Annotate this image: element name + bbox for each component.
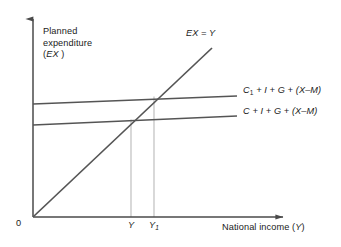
upper-c-symbol: C <box>243 85 250 95</box>
x-tick-y-text: Y <box>128 220 134 230</box>
lower-label-rest: + I + G + (X–M) <box>250 106 318 116</box>
equals-sign: = <box>198 28 209 38</box>
upper-label-rest: + I + G + (X–M) <box>254 85 322 95</box>
y-axis-title-line3-close: ) <box>59 49 65 59</box>
origin-label: 0 <box>16 218 21 229</box>
aggregate-expenditure-line-shifted <box>33 96 237 104</box>
aggregate-expenditure-label: C + I + G + (X–M) <box>243 106 317 117</box>
forty-five-degree-line <box>34 48 213 217</box>
x-tick-label-y: Y <box>128 220 134 231</box>
y-axis-title-line1: Planned <box>43 26 77 36</box>
y-axis-title: Planned expenditure (EX ) <box>43 26 92 61</box>
x-axis-title: National income (Y) <box>222 222 305 233</box>
y-axis-title-line2: expenditure <box>43 38 92 48</box>
y-symbol: Y <box>209 28 215 38</box>
forty-five-degree-line-label: EX = Y <box>186 28 215 39</box>
x-tick-y1-subscript: 1 <box>155 224 159 231</box>
upper-c-subscript: 1 <box>250 89 254 96</box>
x-axis-title-text: National income ( <box>222 222 295 232</box>
aggregate-expenditure-line <box>33 116 237 125</box>
x-axis-title-close: ) <box>301 222 304 232</box>
lower-c-symbol: C <box>243 106 250 116</box>
keynesian-cross-figure: Planned expenditure (EX ) EX = Y C1 + I … <box>0 0 341 247</box>
ex-symbol: EX <box>186 28 198 38</box>
y-axis-title-symbol: EX <box>46 49 58 59</box>
x-tick-label-y1: Y1 <box>149 220 159 231</box>
aggregate-expenditure-shifted-label: C1 + I + G + (X–M) <box>243 85 321 96</box>
